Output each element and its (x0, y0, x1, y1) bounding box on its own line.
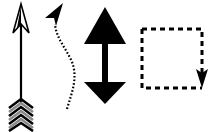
arrow-icons-canvas (0, 0, 214, 132)
